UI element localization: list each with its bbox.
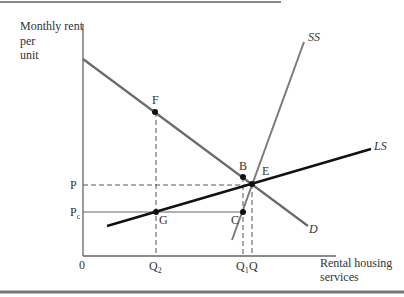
y-tick-p: P xyxy=(70,178,77,192)
point-g-label: G xyxy=(159,213,168,227)
rent-control-diagram: Monthly rent per unit Rental housing ser… xyxy=(0,0,404,297)
point-e-label: E xyxy=(262,164,269,178)
ls-label: LS xyxy=(373,139,387,153)
x-tick-q: Q xyxy=(249,259,258,273)
y-axis-label: Monthly rent per unit xyxy=(20,19,86,62)
x-axis-label: Rental housing services xyxy=(320,256,395,284)
d-label: D xyxy=(308,222,318,236)
origin-label: 0 xyxy=(79,258,85,272)
point-b-label: B xyxy=(239,159,247,173)
point-f xyxy=(152,109,158,115)
x-tick-q1: Q1 xyxy=(236,259,249,275)
ss-label: SS xyxy=(308,30,320,44)
point-c xyxy=(240,209,246,215)
point-e xyxy=(249,181,255,187)
y-tick-pc: Pc xyxy=(70,205,81,221)
x-tick-q2: Q2 xyxy=(149,259,162,275)
point-c-label: C xyxy=(231,213,239,227)
point-f-label: F xyxy=(152,93,159,107)
point-b xyxy=(240,174,246,180)
